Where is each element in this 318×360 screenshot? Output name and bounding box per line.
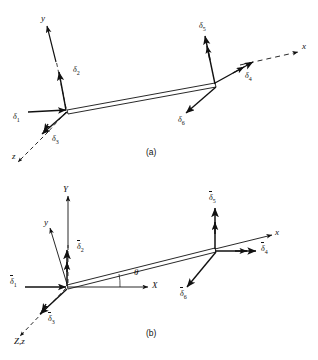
delta-6-index: 6 bbox=[182, 120, 185, 126]
dof-delta-2 bbox=[59, 72, 66, 110]
dof-delta-5 bbox=[205, 36, 215, 84]
axis-label-global-X-b: X bbox=[152, 281, 158, 290]
beam-member-b bbox=[67, 248, 216, 289]
panel-a-graphics bbox=[18, 26, 298, 162]
dof-delta-1 bbox=[28, 110, 66, 112]
delta-1-index: 1 bbox=[17, 117, 20, 123]
dof-label-delta-bar-2: δ2 bbox=[77, 243, 84, 253]
angle-label-theta: θ bbox=[134, 268, 138, 277]
figure-vector-layer bbox=[0, 0, 318, 360]
delta-bar-3-symbol: δ bbox=[48, 314, 52, 323]
axis-label-global-Y-b: Y bbox=[63, 185, 68, 194]
delta-bar-5-index: 5 bbox=[213, 198, 216, 204]
dof-label-delta-bar-1: δ1 bbox=[10, 278, 17, 288]
delta-bar-2-index: 2 bbox=[81, 247, 84, 253]
dof-label-delta-bar-6: δ6 bbox=[180, 290, 187, 300]
dof-label-delta-2: δ2 bbox=[73, 66, 80, 76]
delta-bar-1-index: 1 bbox=[14, 282, 17, 288]
delta-bar-1-symbol: δ bbox=[10, 277, 14, 286]
beam-member-a bbox=[67, 83, 216, 114]
axis-label-x-a: x bbox=[302, 42, 306, 51]
dof-delta-3 bbox=[42, 112, 67, 134]
delta-3-index: 3 bbox=[56, 139, 59, 145]
axis-label-local-y-b: y bbox=[44, 218, 48, 227]
delta-2-index: 2 bbox=[77, 70, 80, 76]
axis-label-y-a: y bbox=[41, 14, 45, 23]
caption-a: (a) bbox=[146, 148, 156, 157]
delta-4-index: 4 bbox=[249, 76, 252, 82]
dof-label-delta-6: δ6 bbox=[178, 116, 185, 126]
axis-local-y-b bbox=[50, 228, 67, 284]
delta-bar-5-symbol: δ bbox=[209, 193, 213, 202]
delta-bar-3-index: 3 bbox=[52, 319, 55, 325]
delta-bar-6-symbol: δ bbox=[180, 289, 184, 298]
dof-delta-bar-3 bbox=[40, 289, 67, 314]
dof-delta-6 bbox=[186, 87, 216, 113]
delta-bar-4-index: 4 bbox=[265, 249, 268, 255]
figure-canvas: y x z δ1 δ2 δ3 δ4 δ5 δ6 (a) Y X Z,z y x … bbox=[0, 0, 318, 360]
dof-delta-bar-6 bbox=[187, 252, 216, 287]
dof-label-delta-bar-3: δ3 bbox=[48, 315, 55, 325]
caption-b: (b) bbox=[146, 329, 156, 338]
delta-bar-2-symbol: δ bbox=[77, 242, 81, 251]
axis-label-z-a: z bbox=[12, 152, 16, 161]
panel-b-graphics bbox=[20, 196, 272, 336]
dof-label-delta-bar-4: δ4 bbox=[261, 245, 268, 255]
delta-bar-4-symbol: δ bbox=[261, 244, 265, 253]
dof-label-delta-3: δ3 bbox=[52, 135, 59, 145]
axis-label-global-Z-b: Z,z bbox=[14, 337, 25, 346]
dof-label-delta-5: δ5 bbox=[199, 22, 206, 32]
dof-label-delta-4: δ4 bbox=[245, 72, 252, 82]
dof-label-delta-1: δ1 bbox=[13, 113, 20, 123]
axis-x-a bbox=[240, 52, 298, 65]
axis-label-local-x-b: x bbox=[275, 228, 279, 237]
delta-5-index: 5 bbox=[203, 26, 206, 32]
dof-label-delta-bar-5: δ5 bbox=[209, 194, 216, 204]
delta-bar-6-index: 6 bbox=[184, 294, 187, 300]
